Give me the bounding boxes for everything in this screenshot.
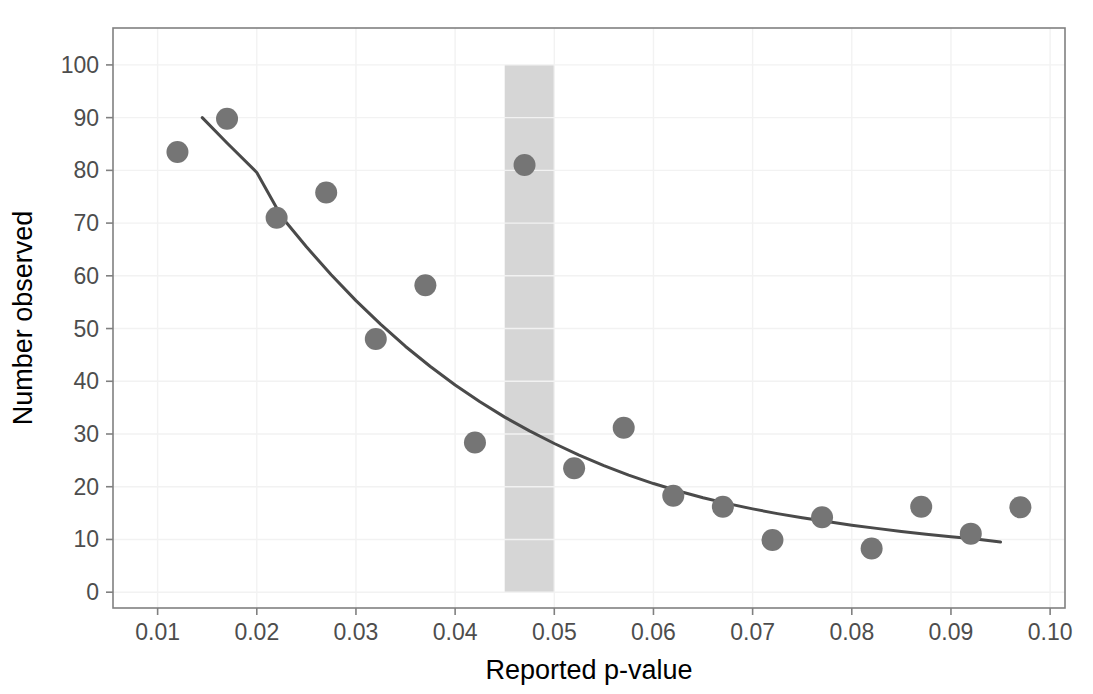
data-point [216,108,238,130]
x-axis-tick-label: 0.01 [135,619,180,645]
data-point [761,529,783,551]
y-axis-tick-label: 20 [73,474,99,500]
data-point [910,496,932,518]
data-point [811,506,833,528]
data-point [414,274,436,296]
x-axis-tick-label: 0.08 [829,619,874,645]
data-point [861,537,883,559]
data-point [464,431,486,453]
y-axis-tick-label: 50 [73,316,99,342]
x-axis-tick-label: 0.05 [532,619,577,645]
x-axis-title: Reported p-value [485,655,692,685]
y-axis-tick-label: 10 [73,526,99,552]
x-axis-tick-label: 0.09 [929,619,974,645]
chart-figure: 0102030405060708090100 0.010.020.030.040… [0,0,1093,694]
x-axis-tick-label: 0.06 [631,619,676,645]
x-axis-tick-label: 0.10 [1028,619,1073,645]
plot-panel-background [113,28,1065,608]
data-point [315,182,337,204]
data-point [712,496,734,518]
y-axis-tick-label: 80 [73,157,99,183]
data-point [166,141,188,163]
y-axis-title: Number observed [8,211,38,426]
data-point [662,485,684,507]
x-axis-tick-label: 0.04 [433,619,478,645]
x-axis-tick-label: 0.07 [730,619,775,645]
data-point [1009,496,1031,518]
x-axis-tick-label: 0.02 [234,619,279,645]
y-axis-tick-label: 60 [73,263,99,289]
data-point [960,523,982,545]
y-axis-tick-label: 30 [73,421,99,447]
y-axis-tick-label: 40 [73,368,99,394]
data-point [563,457,585,479]
data-point [365,328,387,350]
data-point [266,207,288,229]
scatter-plot: 0102030405060708090100 0.010.020.030.040… [0,0,1093,694]
y-axis-tick-label: 0 [86,579,99,605]
y-axis-tick-label: 70 [73,210,99,236]
x-axis-tick-label: 0.03 [334,619,379,645]
y-axis-tick-label: 100 [61,52,99,78]
data-point [613,417,635,439]
y-axis-tick-label: 90 [73,105,99,131]
data-point [514,154,536,176]
